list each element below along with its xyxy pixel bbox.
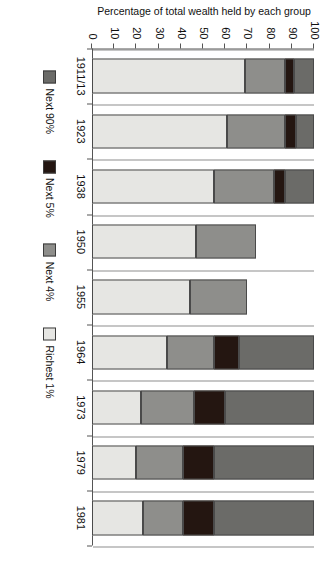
bar-segment-next-4[interactable] [143, 500, 183, 534]
y-axis-tick [180, 43, 181, 48]
grid-line [93, 215, 314, 216]
bar-segment-next-5[interactable] [214, 335, 238, 369]
bar-1979[interactable] [92, 445, 314, 479]
grid-line [93, 159, 314, 160]
x-axis-tick [87, 545, 92, 546]
bar-segment-next-90[interactable] [239, 335, 314, 369]
bar-segment-next-4[interactable] [141, 390, 194, 424]
y-axis-tick [113, 43, 114, 48]
y-axis-tick-label: 0 [87, 0, 98, 39]
bar-segment-next-5[interactable] [194, 390, 225, 424]
bar-segment-next-4[interactable] [214, 169, 274, 203]
y-axis-tick [313, 43, 314, 48]
bar-1973[interactable] [92, 390, 314, 424]
legend-swatch [43, 243, 56, 256]
legend-item[interactable]: Next 4% [43, 243, 56, 301]
bar-segment-richest-1[interactable] [92, 445, 136, 479]
bar-segment-richest-1[interactable] [92, 279, 190, 313]
x-axis-tick-label: 1979 [75, 450, 86, 474]
bar-segment-next-5[interactable] [183, 445, 214, 479]
grid-line [93, 436, 314, 437]
y-axis-tick-label: 30 [153, 0, 164, 39]
legend: Next 90%Next 5%Next 4%Richest 1% [43, 70, 56, 398]
legend-item[interactable]: Next 5% [43, 160, 56, 218]
bar-segment-richest-1[interactable] [92, 500, 143, 534]
bar-segment-next-5[interactable] [183, 500, 214, 534]
figure: Percentage of total wealth held by each … [0, 0, 324, 577]
y-axis-tick [246, 43, 247, 48]
x-axis-tick [87, 158, 92, 159]
bar-segment-next-4[interactable] [136, 445, 183, 479]
y-axis-tick [224, 43, 225, 48]
x-axis-tick-label: 1938 [75, 174, 86, 198]
chart-screenshot: Percentage of total wealth held by each … [0, 0, 324, 577]
bar-segment-next-5[interactable] [274, 169, 285, 203]
bar-segment-next-5[interactable] [285, 58, 294, 92]
legend-item[interactable]: Next 90% [43, 70, 56, 134]
grid-line [93, 380, 314, 381]
y-axis-tick [158, 43, 159, 48]
bar-segment-richest-1[interactable] [92, 114, 227, 148]
y-axis-tick [202, 43, 203, 48]
x-axis-tick-label: 1911/13 [75, 56, 86, 95]
bar-segment-richest-1[interactable] [92, 390, 141, 424]
y-axis-tick-label: 100 [309, 0, 320, 39]
bar-segment-next-90[interactable] [285, 169, 314, 203]
legend-swatch [43, 327, 56, 340]
x-axis-tick [87, 48, 92, 49]
bar-1950[interactable] [92, 224, 314, 258]
bar-segment-richest-1[interactable] [92, 335, 167, 369]
bar-1923[interactable] [92, 114, 314, 148]
bar-segment-next-90[interactable] [214, 500, 314, 534]
grid-line [93, 546, 314, 547]
bar-1964[interactable] [92, 335, 314, 369]
bar-segment-next-90[interactable] [296, 114, 314, 148]
y-axis-tick [91, 43, 92, 48]
y-axis-tick-label: 20 [131, 0, 142, 39]
legend-item[interactable]: Richest 1% [43, 327, 56, 398]
x-axis-tick [87, 490, 92, 491]
x-axis-tick-label: 1955 [75, 284, 86, 308]
x-axis-tick-label: 1964 [75, 339, 86, 363]
bar-segment-next-4[interactable] [190, 279, 248, 313]
y-axis-tick-label: 70 [242, 0, 253, 39]
x-axis-tick [87, 324, 92, 325]
bar-segment-next-90[interactable] [214, 445, 314, 479]
x-axis-tick [87, 103, 92, 104]
legend-label: Richest 1% [44, 345, 55, 398]
bar-segment-richest-1[interactable] [92, 58, 245, 92]
legend-swatch [43, 70, 56, 83]
y-axis-tick-label: 60 [220, 0, 231, 39]
bar-1981[interactable] [92, 500, 314, 534]
x-axis-tick [87, 379, 92, 380]
bar-segment-next-4[interactable] [196, 224, 256, 258]
bar-1955[interactable] [92, 279, 314, 313]
legend-label: Next 5% [44, 178, 55, 218]
legend-swatch [43, 160, 56, 173]
bar-segment-next-90[interactable] [294, 58, 314, 92]
x-axis-tick [87, 214, 92, 215]
bar-segment-next-90[interactable] [225, 390, 314, 424]
grid-line [93, 325, 314, 326]
legend-label: Next 90% [44, 88, 55, 134]
x-axis-tick-label: 1950 [75, 229, 86, 253]
bar-segment-richest-1[interactable] [92, 224, 196, 258]
bar-1911-13[interactable] [92, 58, 314, 92]
bar-segment-next-5[interactable] [285, 114, 296, 148]
grid-line [93, 270, 314, 271]
y-axis-tick-label: 50 [198, 0, 209, 39]
bar-segment-next-4[interactable] [227, 114, 285, 148]
bar-segment-richest-1[interactable] [92, 169, 214, 203]
grid-line [93, 491, 314, 492]
bar-segment-next-4[interactable] [168, 335, 215, 369]
y-axis-tick-label: 90 [286, 0, 297, 39]
x-axis-tick-label: 1973 [75, 395, 86, 419]
grid-line [93, 104, 314, 105]
y-axis-tick-label: 40 [175, 0, 186, 39]
y-axis-tick-label: 80 [264, 0, 275, 39]
x-axis-tick [87, 269, 92, 270]
bar-1938[interactable] [92, 169, 314, 203]
bar-segment-next-4[interactable] [245, 58, 285, 92]
y-axis-tick [269, 43, 270, 48]
legend-label: Next 4% [44, 261, 55, 301]
